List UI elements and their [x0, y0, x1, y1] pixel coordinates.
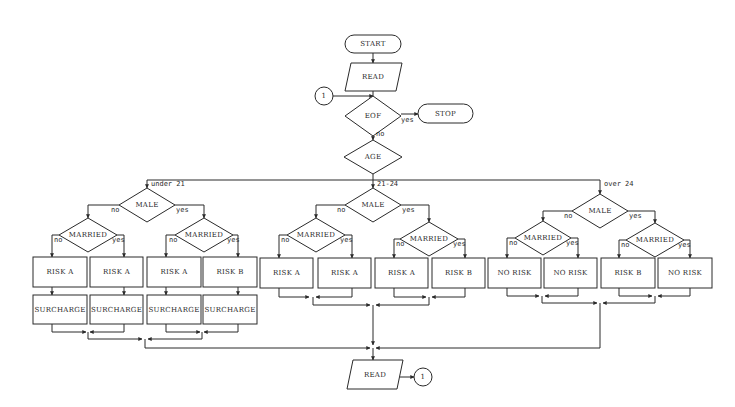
svg-text:yes: yes — [453, 240, 466, 248]
svg-text:no: no — [564, 212, 572, 220]
svg-text:no: no — [54, 236, 62, 244]
married-decision-female: MARRIED — [287, 218, 345, 252]
outcome-box: RISK A — [375, 258, 428, 288]
branch-21-24: MALE no yes MARRIED no yes MARRIED no ye… — [260, 188, 485, 345]
outcome-box: NO RISK — [488, 258, 541, 288]
outcome-box: RISK B — [601, 258, 655, 288]
svg-text:SURCHARGE: SURCHARGE — [204, 306, 255, 314]
married-decision-male: MARRIED — [400, 222, 458, 256]
svg-text:RISK A: RISK A — [46, 268, 74, 276]
svg-text:yes: yes — [629, 212, 642, 220]
svg-text:START: START — [360, 40, 385, 48]
svg-text:RISK B: RISK B — [445, 269, 472, 277]
surcharge-box: SURCHARGE — [147, 295, 201, 324]
svg-text:yes: yes — [112, 236, 125, 244]
svg-text:SURCHARGE: SURCHARGE — [34, 306, 85, 314]
svg-text:MALE: MALE — [588, 207, 611, 215]
svg-text:MARRIED: MARRIED — [69, 231, 107, 239]
svg-text:RISK B: RISK B — [216, 268, 243, 276]
svg-text:AGE: AGE — [364, 153, 382, 161]
eof-decision: EOF — [345, 96, 401, 136]
married-decision-male: MARRIED — [626, 223, 684, 257]
outcome-box: NO RISK — [544, 258, 597, 288]
male-no-label: no — [111, 206, 119, 214]
svg-text:RISK A: RISK A — [388, 269, 416, 277]
male-decision: MALE — [345, 188, 401, 222]
outcome-box: RISK B — [203, 257, 257, 287]
svg-text:NO RISK: NO RISK — [668, 269, 703, 277]
svg-text:yes: yes — [340, 236, 353, 244]
connector-out-1: 1 — [414, 368, 432, 386]
svg-text:MARRIED: MARRIED — [524, 234, 562, 242]
read-input-top: READ — [345, 63, 402, 91]
outcome-box: RISK A — [33, 257, 87, 287]
eof-no-label: no — [376, 130, 384, 138]
outcome-box: RISK A — [260, 258, 313, 288]
svg-text:READ: READ — [362, 73, 384, 81]
married-decision-female: MARRIED — [515, 221, 571, 255]
outcome-box: NO RISK — [658, 258, 712, 288]
svg-text:SURCHARGE: SURCHARGE — [148, 306, 199, 314]
married-decision-female: MARRIED — [59, 218, 117, 252]
eof-yes-label: yes — [401, 116, 414, 124]
svg-text:SURCHARGE: SURCHARGE — [91, 306, 142, 314]
svg-text:EOF: EOF — [365, 112, 382, 120]
svg-text:no: no — [396, 240, 404, 248]
outcome-box: RISK A — [147, 257, 201, 287]
svg-text:RISK A: RISK A — [273, 269, 301, 277]
svg-text:1: 1 — [322, 92, 327, 100]
svg-text:yes: yes — [566, 239, 579, 247]
svg-text:STOP: STOP — [435, 110, 456, 118]
svg-text:no: no — [337, 206, 345, 214]
connector-in-1: 1 — [315, 87, 333, 105]
stop-terminal: STOP — [418, 104, 473, 123]
svg-text:no: no — [509, 239, 517, 247]
svg-text:yes: yes — [678, 241, 691, 249]
branch-label-21-24: 21-24 — [377, 180, 398, 188]
svg-text:READ: READ — [364, 371, 386, 379]
married-decision-male: MARRIED — [175, 218, 233, 252]
svg-text:RISK A: RISK A — [103, 268, 131, 276]
age-decision: AGE — [344, 140, 402, 174]
svg-text:1: 1 — [421, 373, 426, 381]
svg-text:RISK A: RISK A — [160, 268, 188, 276]
male-decision: MALE — [572, 194, 628, 228]
svg-text:yes: yes — [227, 236, 240, 244]
svg-text:MALE: MALE — [361, 201, 384, 209]
svg-text:RISK A: RISK A — [331, 269, 359, 277]
svg-text:no: no — [621, 241, 629, 249]
svg-text:no: no — [281, 236, 289, 244]
outcome-box: RISK B — [432, 258, 485, 288]
svg-text:MARRIED: MARRIED — [185, 231, 223, 239]
svg-text:no: no — [169, 236, 177, 244]
surcharge-box: SURCHARGE — [90, 295, 143, 324]
male-yes-label: yes — [176, 206, 189, 214]
svg-text:MARRIED: MARRIED — [636, 236, 674, 244]
male-decision: MALE — [119, 188, 175, 222]
branch-label-under-21: under 21 — [151, 180, 185, 188]
svg-text:NO RISK: NO RISK — [497, 269, 532, 277]
svg-text:MARRIED: MARRIED — [410, 235, 448, 243]
outcome-box: RISK A — [318, 258, 371, 288]
branch-label-over-24: over 24 — [604, 180, 634, 188]
svg-text:MARRIED: MARRIED — [297, 231, 335, 239]
surcharge-box: SURCHARGE — [203, 295, 257, 324]
surcharge-box: SURCHARGE — [33, 295, 87, 324]
outcome-box: RISK A — [90, 257, 143, 287]
svg-text:MALE: MALE — [135, 201, 158, 209]
svg-text:yes: yes — [402, 206, 415, 214]
flowchart-canvas: START READ 1 EOF yes STOP no AGE under 2… — [0, 0, 735, 407]
start-terminal: START — [345, 35, 401, 53]
read-input-bottom: READ — [347, 360, 403, 389]
svg-text:RISK B: RISK B — [614, 269, 641, 277]
svg-text:NO RISK: NO RISK — [553, 269, 588, 277]
